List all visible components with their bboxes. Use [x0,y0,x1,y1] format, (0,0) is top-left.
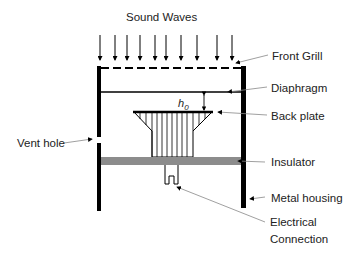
back-plate [133,112,213,157]
electrical-connector [165,165,178,184]
sound-waves-title: Sound Waves [126,11,197,23]
label-front-grill: Front Grill [272,50,322,62]
label-insulator: Insulator [271,156,315,168]
condenser-microphone-diagram: Sound Waves h0 [0,0,356,256]
label-electrical-line2: Connection [270,233,328,245]
sound-wave-arrows [100,35,232,60]
housing-left-wall-lower [97,143,101,211]
housing-left-wall-upper [97,66,101,137]
label-back-plate: Back plate [271,110,325,122]
label-vent-hole: Vent hole [17,137,65,149]
label-metal-housing: Metal housing [271,192,343,204]
label-diaphragm: Diaphragm [271,82,327,94]
housing-right-wall [241,66,246,208]
gap-label: h0 [178,97,189,112]
insulator [101,157,241,165]
label-electrical-line1: Electrical [270,216,317,228]
